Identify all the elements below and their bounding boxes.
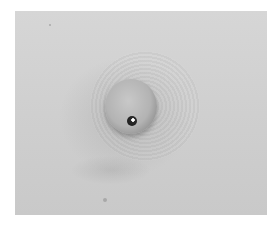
speck bbox=[49, 24, 51, 26]
speck bbox=[103, 198, 107, 202]
clinical-photo bbox=[15, 11, 267, 215]
dark-spot bbox=[127, 116, 137, 126]
